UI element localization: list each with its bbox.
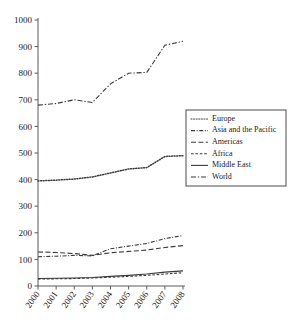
y-tick-label: 500 — [19, 148, 33, 158]
series-line-europe — [38, 156, 183, 181]
legend-label: Asia and the Pacific — [212, 125, 277, 134]
y-axis: 01002003004005006007008009001000 — [14, 15, 38, 291]
legend-label: World — [212, 172, 232, 181]
chart-legend: EuropeAsia and the PacificAmericasAfrica… — [186, 110, 286, 186]
series-line-asia-and-the-pacific — [38, 235, 183, 256]
y-tick-label: 600 — [19, 122, 33, 132]
series-line-americas — [38, 246, 183, 256]
y-tick-label: 200 — [19, 228, 33, 238]
series-lines — [38, 41, 183, 279]
x-tick-label: 2001 — [41, 289, 60, 309]
x-tick-label: 2003 — [77, 289, 96, 310]
y-tick-label: 1000 — [14, 15, 33, 25]
legend-label: Europe — [212, 114, 236, 123]
legend-label: Americas — [212, 137, 243, 146]
series-line-world — [38, 41, 183, 105]
y-tick-label: 300 — [19, 201, 33, 211]
line-chart: 01002003004005006007008009001000 2000200… — [0, 0, 288, 326]
y-tick-label: 0 — [28, 281, 33, 291]
x-tick-label: 2000 — [23, 289, 42, 310]
x-tick-label: 2006 — [132, 289, 151, 310]
y-tick-label: 100 — [19, 255, 33, 265]
x-tick-label: 2008 — [168, 289, 187, 310]
y-tick-label: 900 — [19, 42, 33, 52]
x-tick-label: 2002 — [59, 289, 78, 309]
y-tick-label: 800 — [19, 68, 33, 78]
x-tick-label: 2005 — [114, 289, 133, 310]
chart-canvas: 01002003004005006007008009001000 2000200… — [0, 0, 288, 326]
x-axis: 200020012002200320042005200620072008 — [23, 286, 187, 310]
x-tick-label: 2007 — [150, 289, 169, 310]
y-tick-label: 400 — [19, 175, 33, 185]
x-tick-label: 2004 — [96, 289, 115, 310]
legend-label: Africa — [212, 149, 233, 158]
legend-label: Middle East — [212, 160, 252, 169]
legend-box — [186, 110, 286, 186]
y-tick-label: 700 — [19, 95, 33, 105]
